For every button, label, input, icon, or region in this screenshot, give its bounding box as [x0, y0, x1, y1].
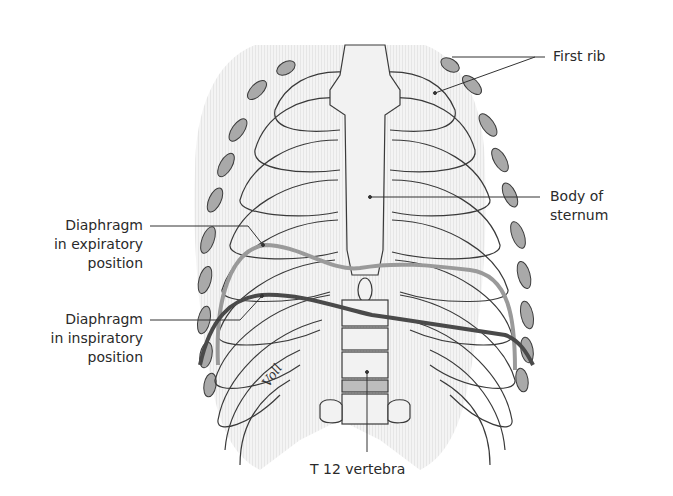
label-first-rib: First rib	[553, 47, 605, 66]
rib-cage: Voll	[194, 45, 535, 470]
label-diaphragm-inspiratory: Diaphragm in inspiratory position	[51, 310, 143, 367]
label-t12-vertebra: T 12 vertebra	[310, 460, 405, 479]
label-diaphragm-expiratory: Diaphragm in expiratory position	[54, 216, 143, 273]
label-body-of-sternum: Body of sternum	[550, 187, 608, 225]
